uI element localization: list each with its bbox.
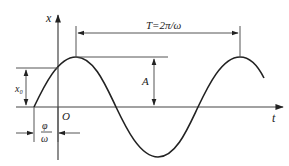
shm-diagram: t x O x₀ φ ω A T=2π/ω [0,0,289,166]
amplitude-label: A [141,75,149,87]
t-axis-label: t [272,111,276,125]
origin-label: O [62,110,70,122]
x0-label: x₀ [14,83,23,94]
phase-numerator: φ [42,120,48,131]
period-label: T=2π/ω [146,19,182,31]
phase-denominator: ω [41,133,48,144]
x-axis-label: x [45,11,52,25]
